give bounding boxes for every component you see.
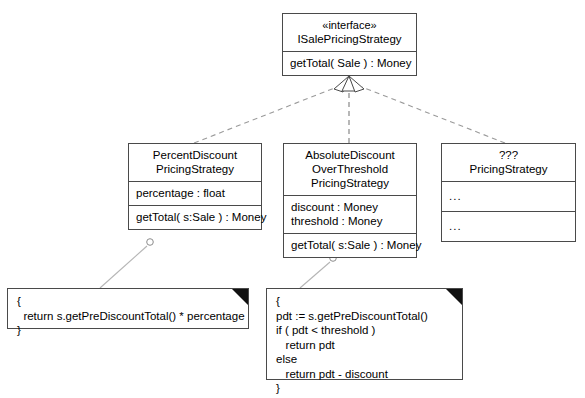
class-box-unknown-pricingstrategy[interactable]: ??? PricingStrategy ... ... [441, 143, 576, 242]
class-name-line: PercentDiscount [136, 148, 254, 162]
class-operations-compartment-interface: getTotal( Sale ) : Money [283, 51, 416, 75]
realization-right-line [362, 87, 505, 143]
class-name-line: AbsoluteDiscount [291, 148, 409, 162]
class-operations-compartment-absolute: getTotal( s:Sale ) : Money [284, 233, 416, 257]
note-line: { [17, 294, 240, 309]
note-line: } [276, 381, 454, 396]
class-name-line: PricingStrategy [136, 162, 254, 176]
note-line: } [17, 323, 240, 338]
note-line: return pdt [276, 338, 454, 353]
operation-item: getTotal( Sale ) : Money [290, 56, 409, 70]
note-line: return pdt - discount [276, 367, 454, 382]
class-name-compartment-percent: PercentDiscount PricingStrategy [129, 144, 261, 181]
realization-left-line [194, 87, 337, 143]
note-anchor-right [300, 255, 336, 288]
uml-class-diagram: «interface» ISalePricingStrategy getTota… [0, 0, 585, 398]
note-line: { [276, 294, 454, 309]
note-line: if ( pdt < threshold ) [276, 323, 454, 338]
class-name-interface: ISalePricingStrategy [290, 32, 409, 46]
class-box-percentdiscountpricingstrategy[interactable]: PercentDiscount PricingStrategy percenta… [128, 143, 262, 230]
realization-right-arrowhead [349, 76, 364, 92]
note-box-absolute-discount-body[interactable]: { pdt := s.getPreDiscountTotal() if ( pd… [266, 288, 463, 380]
note-fold-corner-icon [446, 289, 462, 305]
class-attributes-compartment-unknown: ... [442, 181, 575, 211]
class-name-line: PricingStrategy [291, 176, 409, 190]
note-anchor-left-socket [147, 239, 154, 246]
note-fold-corner-icon [232, 289, 248, 305]
realization-left-arrowhead [334, 76, 349, 92]
note-anchor-left [100, 239, 153, 288]
attribute-item: threshold : Money [291, 214, 409, 228]
note-anchor-right-line [300, 262, 330, 288]
class-name-line: PricingStrategy [449, 162, 568, 176]
operation-item: getTotal( s:Sale ) : Money [136, 210, 254, 224]
realization-left [194, 76, 349, 143]
class-box-isalepricingstrategy[interactable]: «interface» ISalePricingStrategy getTota… [282, 13, 417, 76]
class-box-absolutediscountoverthresholdpricingstrategy[interactable]: AbsoluteDiscount OverThreshold PricingSt… [283, 143, 417, 258]
realization-right [349, 76, 505, 143]
class-stereotype-interface: «interface» [290, 18, 409, 32]
note-line: return s.getPreDiscountTotal() * percent… [17, 309, 240, 324]
class-operations-compartment-unknown: ... [442, 211, 575, 241]
attribute-item: discount : Money [291, 200, 409, 214]
note-line: pdt := s.getPreDiscountTotal() [276, 309, 454, 324]
note-line: else [276, 352, 454, 367]
operation-item: getTotal( s:Sale ) : Money [291, 238, 409, 252]
class-name-compartment-unknown: ??? PricingStrategy [442, 144, 575, 181]
class-name-compartment-absolute: AbsoluteDiscount OverThreshold PricingSt… [284, 144, 416, 195]
note-anchor-left-line [100, 246, 147, 288]
realization-center [342, 76, 356, 143]
class-operations-compartment-percent: getTotal( s:Sale ) : Money [129, 205, 261, 229]
attribute-item: percentage : float [136, 186, 254, 200]
class-name-compartment-interface: «interface» ISalePricingStrategy [283, 14, 416, 51]
class-attributes-compartment-absolute: discount : Money threshold : Money [284, 195, 416, 233]
realization-center-arrowhead [342, 76, 356, 91]
operation-item: ... [449, 219, 568, 233]
class-name-line: ??? [449, 148, 568, 162]
class-attributes-compartment-percent: percentage : float [129, 181, 261, 205]
class-name-line: OverThreshold [291, 162, 409, 176]
attribute-item: ... [449, 189, 568, 203]
note-box-percent-discount-body[interactable]: { return s.getPreDiscountTotal() * perce… [7, 288, 249, 329]
